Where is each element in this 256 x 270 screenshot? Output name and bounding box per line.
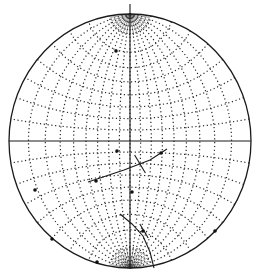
data-point (141, 229, 145, 233)
data-point (50, 237, 54, 241)
plotted-data (33, 49, 217, 268)
data-point (115, 149, 119, 153)
data-point (130, 190, 134, 194)
data-point (95, 260, 99, 264)
data-point (213, 229, 217, 233)
data-point (114, 49, 118, 53)
plane-trace-1 (88, 149, 167, 182)
data-point (33, 188, 37, 192)
stereonet-diagram (0, 0, 256, 270)
data-point (159, 151, 163, 155)
data-point (94, 179, 98, 183)
